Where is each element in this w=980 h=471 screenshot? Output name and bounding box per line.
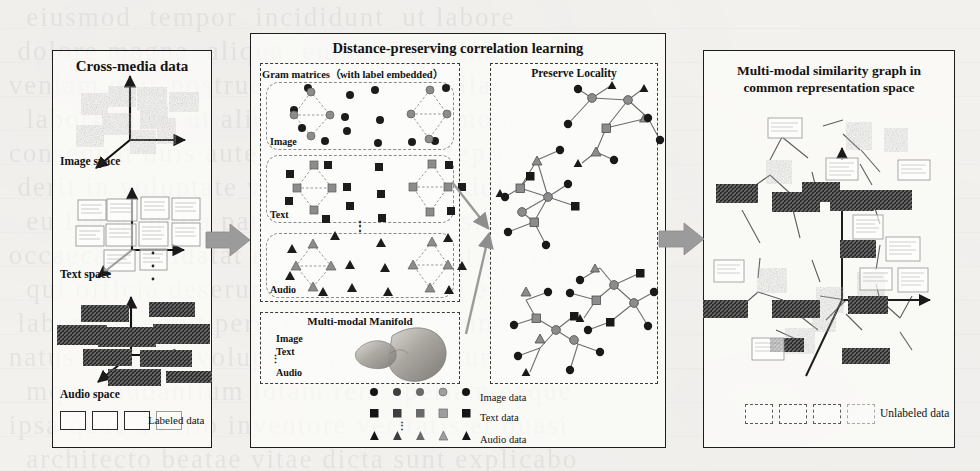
panel-multimodal-similarity-graph [703,50,955,448]
gram-row-text [266,155,454,223]
gram-matrices-title: Gram matrices（with label embedded） [262,66,443,81]
preserve-locality-container [490,63,658,384]
labeled-data-swatch [124,411,150,430]
unlabeled-data-swatch [847,404,875,424]
right-panel-title-line1: Multi-modal similarity graph in [703,63,955,79]
manifold-modality-image: Image [276,333,303,344]
left-label-audio-space: Audio space [60,388,120,400]
labeled-data-swatch [92,411,118,430]
unlabeled-data-swatch [779,404,807,424]
unlabeled-data-swatch [745,404,773,424]
unlabeled-data-legend-label: Unlabeled data [880,407,949,419]
left-label-text-space: Text space [60,268,111,280]
manifold-separator: ⋮ [270,357,296,361]
left-panel-title: Cross-media data [52,58,212,75]
left-label-image-space: Image space [60,155,120,167]
legend-text-data-label: Text data [480,412,519,423]
preserve-locality-title: Preserve Locality [490,67,658,79]
arrow-left-to-middle [206,224,250,256]
gram-row-audio-label: Audio [270,284,296,295]
right-panel-title-line2: common representation space [703,80,955,96]
gram-row-text-label: Text [270,209,289,220]
manifold-modality-audio: Audio [276,367,302,378]
legend-image-data-label: Image data [480,392,526,403]
legend-audio-data-label: Audio data [480,434,526,445]
legend-separator: ⋮ [392,424,412,428]
gram-row-separator: ⋮ [340,224,380,228]
unlabeled-data-swatch [813,404,841,424]
gram-row-image-label: Image [270,136,297,147]
labeled-data-legend-label: Labeled data [148,414,204,426]
multimodal-manifold-title: Multi-modal Manifold [260,315,460,327]
labeled-data-swatch [60,411,86,430]
middle-panel-title: Distance-preserving correlation learning [250,40,666,57]
